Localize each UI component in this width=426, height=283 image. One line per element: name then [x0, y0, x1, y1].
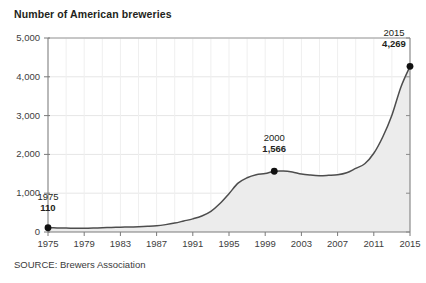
annotation-value: 4,269: [364, 39, 424, 50]
data-point-marker: [407, 63, 414, 70]
source-note: SOURCE: Brewers Association: [14, 259, 145, 270]
x-axis-tick-label: 1991: [173, 238, 213, 249]
y-axis-tick-label: 0: [0, 226, 40, 237]
x-axis-tick-label: 2011: [354, 238, 394, 249]
x-axis-tick-label: 1983: [100, 238, 140, 249]
annotation-value: 1,566: [244, 144, 304, 155]
annotation-value: 110: [18, 203, 78, 214]
annotation-2015: 20154,269: [364, 28, 424, 50]
x-axis-tick-label: 2007: [318, 238, 358, 249]
x-axis-tick-label: 1995: [209, 238, 249, 249]
y-axis-tick-label: 5,000: [0, 32, 40, 43]
y-axis-tick-label: 4,000: [0, 71, 40, 82]
x-axis-tick-label: 1999: [245, 238, 285, 249]
annotation-1975: 1975110: [18, 192, 78, 214]
annotation-year: 1975: [18, 192, 78, 203]
data-point-marker: [271, 168, 278, 175]
x-axis-tick-label: 1979: [64, 238, 104, 249]
y-axis-tick-label: 2,000: [0, 148, 40, 159]
data-point-marker: [45, 224, 52, 231]
annotation-2000: 20001,566: [244, 133, 304, 155]
x-axis-tick-label: 1975: [28, 238, 68, 249]
y-axis-tick-label: 3,000: [0, 110, 40, 121]
x-axis-tick-label: 1987: [137, 238, 177, 249]
chart-figure: Number of American breweries 01,0002,000…: [0, 0, 426, 283]
x-axis-tick-label: 2015: [390, 238, 426, 249]
x-axis-tick-label: 2003: [281, 238, 321, 249]
